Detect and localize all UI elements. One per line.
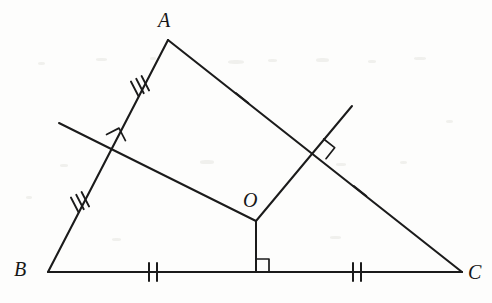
right-angle-marks <box>107 128 335 272</box>
side-ac <box>168 40 462 272</box>
figure-canvas <box>0 0 492 303</box>
right-angle-ab-icon <box>107 128 126 147</box>
congruence-tick-marks <box>71 76 366 281</box>
scan-speck <box>414 57 426 60</box>
scan-speck <box>330 236 341 239</box>
side-ab <box>48 40 168 272</box>
scan-speck <box>150 57 156 60</box>
tick-ac-lower <box>354 186 367 196</box>
scan-speck <box>96 58 107 61</box>
scan-speck <box>38 62 45 65</box>
scan-speck <box>228 60 244 64</box>
vertex-label-c: C <box>468 262 481 282</box>
right-angle-bc-icon <box>256 259 269 272</box>
right-angle-ac-icon <box>315 139 335 159</box>
point-label-o: O <box>243 190 257 210</box>
vertex-label-b: B <box>14 259 26 279</box>
scan-speck <box>112 238 121 241</box>
scan-speck <box>316 58 329 62</box>
geometry-figure: A B C O <box>0 0 492 303</box>
scan-speck <box>368 60 376 63</box>
scan-speck <box>26 196 32 199</box>
perpendicular-bisectors <box>59 106 352 272</box>
vertex-label-a: A <box>158 10 170 30</box>
scan-speck <box>400 161 407 164</box>
scan-speck <box>446 120 453 123</box>
tick-ac-upper <box>236 93 249 103</box>
scan-speck <box>200 160 214 164</box>
scan-speck <box>268 59 277 62</box>
scan-speck <box>336 163 346 166</box>
scan-speck <box>60 164 68 167</box>
